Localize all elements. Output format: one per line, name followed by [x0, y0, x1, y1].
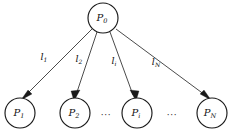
- diagram-canvas: l1 l2 li lN P0 P1: [0, 0, 236, 137]
- ellipsis-right: ···: [167, 110, 177, 120]
- node-P2: P2: [60, 98, 90, 128]
- node-PN: PN: [197, 98, 227, 128]
- ellipsis-left: ···: [101, 110, 111, 120]
- edge-label-li: li: [112, 55, 117, 67]
- edge-label-l2: l2: [76, 53, 83, 65]
- star-topology-figure: l1 l2 li lN P0 P1: [0, 0, 236, 137]
- edge-lN: [116, 29, 211, 100]
- edge-label-lN: lN: [152, 56, 161, 68]
- edge-label-l1: l1: [41, 51, 48, 63]
- node-Pi: Pi: [122, 98, 152, 128]
- edge-label-group: l1 l2 li lN: [41, 51, 161, 68]
- leaf-node-group: P1 P2 Pi PN: [5, 98, 227, 128]
- node-P0: P0: [88, 3, 118, 33]
- edge-l1: [21, 29, 92, 100]
- edge-l2: [71, 32, 97, 101]
- node-P1: P1: [5, 98, 35, 128]
